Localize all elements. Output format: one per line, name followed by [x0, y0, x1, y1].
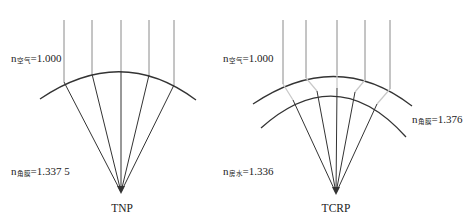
subscript-cornea: 角膜: [17, 170, 31, 177]
subscript-air: 空气: [229, 57, 243, 64]
subscript-aqueous: 房水: [229, 170, 243, 177]
refractive-index-value: =1.000: [31, 52, 62, 64]
focal-point: [332, 187, 340, 195]
caption-tcrp: TCRP: [322, 202, 351, 214]
refractive-index-value: =1.337 5: [31, 165, 70, 177]
incident-rays: [64, 20, 174, 85]
label-n-aqueous-tcrp: n房水=1.336: [223, 166, 273, 178]
refractive-index-value: =1.376: [432, 113, 463, 125]
tcrp-diagram: [253, 20, 412, 195]
label-n-cornea-tcrp: n角膜=1.376: [412, 114, 462, 126]
optics-diagram: [0, 0, 471, 224]
subscript-air: 空气: [17, 57, 31, 64]
refractive-index-value: =1.336: [243, 165, 274, 177]
posterior-cornea-surface: [261, 96, 406, 137]
subscript-cornea: 角膜: [418, 118, 432, 125]
cornea-surface: [40, 72, 196, 100]
focal-point: [117, 186, 125, 194]
label-n-air-tnp: n空气=1.000: [11, 53, 61, 65]
label-n-cornea-tnp: n角膜=1.337 5: [11, 166, 70, 178]
refractive-index-value: =1.000: [243, 52, 274, 64]
caption-tnp: TNP: [111, 202, 133, 214]
refracted-rays: [64, 71, 174, 192]
label-n-air-tcrp: n空气=1.000: [223, 53, 273, 65]
